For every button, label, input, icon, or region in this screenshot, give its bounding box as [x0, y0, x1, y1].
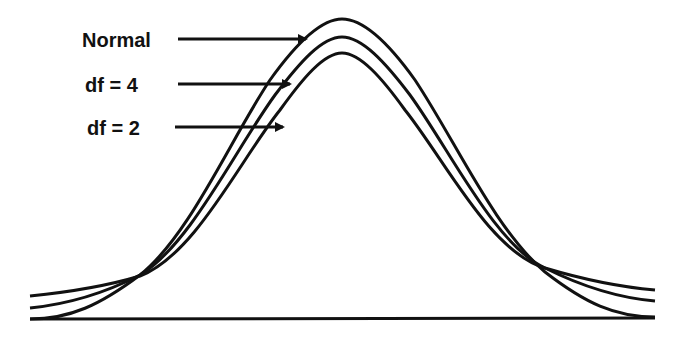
- label-normal: Normal: [82, 30, 151, 50]
- distribution-diagram: [0, 0, 682, 344]
- label-df-2: df = 2: [87, 118, 140, 138]
- label-df-4: df = 4: [85, 75, 138, 95]
- baseline-axis: [30, 318, 655, 319]
